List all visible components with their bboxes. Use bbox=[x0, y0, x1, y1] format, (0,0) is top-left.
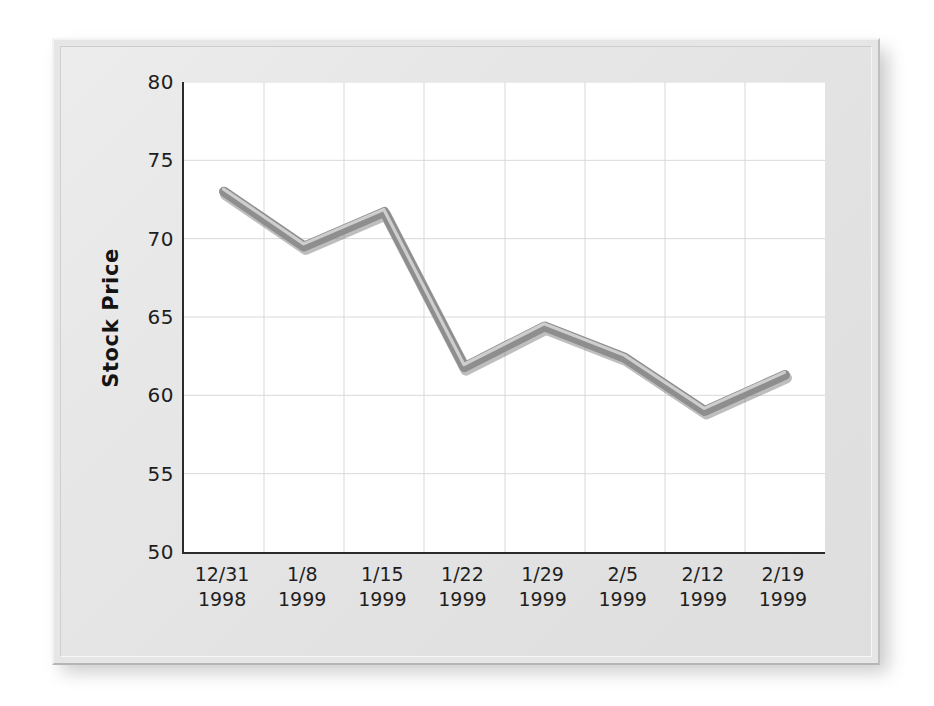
x-tick-label: 2/191999 bbox=[759, 562, 807, 612]
x-tick-label: 1/221999 bbox=[438, 562, 486, 612]
x-tick-label-line: 1/8 bbox=[278, 562, 326, 587]
x-tick-label-line: 1/29 bbox=[518, 562, 566, 587]
y-axis-tick-labels: 80757065605550 bbox=[120, 82, 174, 554]
y-tick-label: 70 bbox=[148, 227, 174, 251]
x-tick-label-line: 1999 bbox=[599, 587, 647, 612]
line-chart-svg bbox=[184, 82, 825, 552]
x-tick-label-line: 1999 bbox=[278, 587, 326, 612]
y-tick-label: 80 bbox=[148, 70, 174, 94]
y-tick-label: 60 bbox=[148, 383, 174, 407]
x-tick-label-line: 1999 bbox=[679, 587, 727, 612]
x-axis-tick-labels: 12/3119981/819991/1519991/2219991/291999… bbox=[182, 562, 825, 622]
y-tick-label: 50 bbox=[148, 540, 174, 564]
plot-canvas bbox=[184, 82, 825, 552]
x-tick-label-line: 2/19 bbox=[759, 562, 807, 587]
x-tick-label: 1/291999 bbox=[518, 562, 566, 612]
chart-screenshot: Stock Price 80757065605550 12/3119981/81… bbox=[0, 0, 934, 706]
x-tick-label-line: 1999 bbox=[438, 587, 486, 612]
y-tick-label: 55 bbox=[148, 462, 174, 486]
x-tick-label: 2/51999 bbox=[599, 562, 647, 612]
x-tick-label-line: 2/12 bbox=[679, 562, 727, 587]
x-tick-label-line: 1999 bbox=[518, 587, 566, 612]
plot-area bbox=[182, 82, 825, 554]
x-tick-label-line: 1/15 bbox=[358, 562, 406, 587]
x-tick-label: 2/121999 bbox=[679, 562, 727, 612]
series-line-shadow bbox=[226, 195, 787, 414]
x-tick-label: 1/81999 bbox=[278, 562, 326, 612]
y-tick-label: 65 bbox=[148, 305, 174, 329]
x-tick-label-line: 12/31 bbox=[195, 562, 250, 587]
x-tick-label-line: 1999 bbox=[358, 587, 406, 612]
x-tick-label-line: 1999 bbox=[759, 587, 807, 612]
x-tick-label-line: 2/5 bbox=[599, 562, 647, 587]
y-tick-label: 75 bbox=[148, 148, 174, 172]
series-line-highlight bbox=[224, 189, 785, 408]
x-tick-label: 1/151999 bbox=[358, 562, 406, 612]
x-tick-label: 12/311998 bbox=[195, 562, 250, 612]
x-tick-label-line: 1998 bbox=[195, 587, 250, 612]
x-tick-label-line: 1/22 bbox=[438, 562, 486, 587]
